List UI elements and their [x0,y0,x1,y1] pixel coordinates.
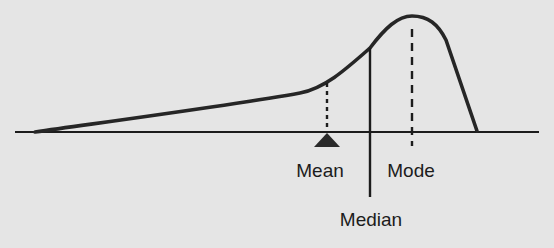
mean-fulcrum-triangle [314,133,340,147]
diagram-graphic [0,0,554,248]
distribution-curve [35,16,477,132]
skewed-distribution-diagram: Mean Mode Median [0,0,554,248]
median-label: Median [340,210,402,229]
mode-label: Mode [387,161,435,180]
mean-label: Mean [296,161,344,180]
